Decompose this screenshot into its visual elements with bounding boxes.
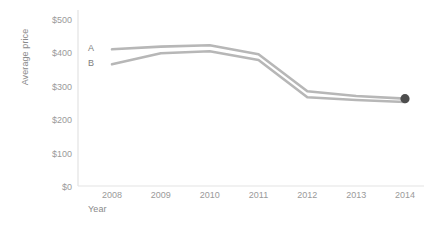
line-chart: Average price $0 $100 $200 $300 $400 $50… — [0, 0, 424, 232]
end-point-marker[interactable] — [400, 94, 409, 103]
plot-area — [0, 0, 424, 232]
series-line-b — [112, 51, 405, 102]
